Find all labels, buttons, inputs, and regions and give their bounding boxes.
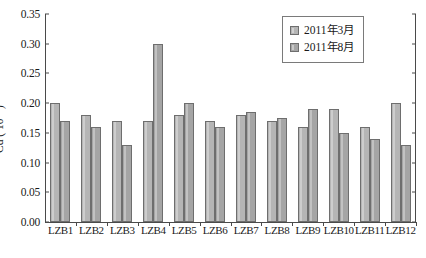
x-axis-label-lzb7: LZB7 [231, 224, 262, 236]
y-axis-label-base: Cd ( 10 [0, 118, 5, 153]
bar-lzb12-series1 [391, 103, 401, 222]
x-axis-labels: LZB1LZB2LZB3LZB4LZB5LZB6LZB7LZB8LZB9LZB1… [45, 224, 416, 236]
bar-lzb12-series2 [401, 145, 411, 222]
y-axis-tick-label: 0.10 [21, 157, 45, 169]
x-axis-label-lzb3: LZB3 [107, 224, 138, 236]
y-axis-tick-label: 0.25 [21, 67, 45, 79]
bar-lzb5-series1 [174, 115, 184, 222]
y-axis-tick-label: 0.15 [21, 127, 45, 139]
x-axis-label-lzb12: LZB12 [385, 224, 416, 236]
bar-group [385, 14, 416, 222]
bar-lzb6-series2 [215, 127, 225, 222]
bar-lzb2-series2 [91, 127, 101, 222]
legend-swatch-icon [290, 26, 299, 35]
bar-group [200, 14, 231, 222]
bar-group [76, 14, 107, 222]
bar-lzb4-series1 [143, 121, 153, 222]
legend-label: 2011年3月 [304, 22, 354, 39]
bar-lzb7-series2 [246, 112, 256, 222]
x-axis-label-lzb8: LZB8 [261, 224, 292, 236]
bar-lzb3-series1 [112, 121, 122, 222]
y-axis-label-tail: ) [0, 105, 5, 112]
bar-lzb7-series1 [236, 115, 246, 222]
bar-lzb8-series1 [267, 121, 277, 222]
legend-item: 2011年3月 [290, 22, 354, 39]
bar-group [231, 14, 262, 222]
x-axis-label-lzb9: LZB9 [292, 224, 323, 236]
x-axis-tick-mark [416, 222, 417, 226]
x-axis-label-lzb2: LZB2 [76, 224, 107, 236]
y-axis-label: Cd ( 10-6 ) [0, 105, 5, 153]
bar-lzb11-series2 [370, 139, 380, 222]
bar-lzb5-series2 [184, 103, 194, 222]
chart-legend: 2011年3月2011年8月 [282, 16, 364, 63]
y-axis-tick-label: 0.20 [21, 97, 45, 109]
bar-group [45, 14, 76, 222]
legend-swatch-icon [290, 43, 299, 52]
bar-lzb9-series2 [308, 109, 318, 222]
y-axis-tick-label: 0.30 [21, 38, 45, 50]
chart-figure: Cd ( 10-6 ) 0.000.050.100.150.200.250.30… [0, 0, 426, 258]
bar-group [138, 14, 169, 222]
bar-lzb1-series2 [60, 121, 70, 222]
bar-group [169, 14, 200, 222]
bar-lzb3-series2 [122, 145, 132, 222]
bar-lzb6-series1 [205, 121, 215, 222]
x-axis-label-lzb4: LZB4 [138, 224, 169, 236]
x-axis-label-lzb6: LZB6 [200, 224, 231, 236]
bar-lzb2-series1 [81, 115, 91, 222]
x-axis-label-lzb5: LZB5 [169, 224, 200, 236]
bar-group [107, 14, 138, 222]
x-axis-label-lzb11: LZB11 [354, 224, 385, 236]
legend-item: 2011年8月 [290, 39, 354, 56]
bar-lzb1-series1 [50, 103, 60, 222]
x-axis-label-lzb1: LZB1 [45, 224, 76, 236]
bar-lzb11-series1 [360, 127, 370, 222]
bar-lzb10-series1 [329, 109, 339, 222]
bar-lzb4-series2 [153, 44, 163, 222]
x-axis-label-lzb10: LZB10 [323, 224, 354, 236]
bar-lzb9-series1 [298, 127, 308, 222]
y-axis-tick-label: 0.05 [21, 186, 45, 198]
y-axis-tick-label: 0.00 [21, 216, 45, 228]
bar-lzb8-series2 [277, 118, 287, 222]
bar-lzb10-series2 [339, 133, 349, 222]
y-axis-tick-label: 0.35 [21, 8, 45, 20]
legend-label: 2011年8月 [304, 39, 354, 56]
